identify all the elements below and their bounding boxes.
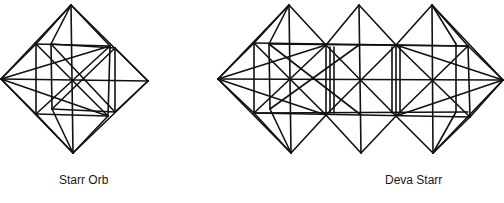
edge-line (396, 116, 433, 153)
edge-line (73, 116, 108, 153)
edge-line (270, 109, 291, 153)
edge-line (52, 109, 115, 112)
edge-line (115, 48, 148, 81)
edge-line (359, 5, 396, 45)
starr-orb-figure (1, 5, 148, 153)
edge-line (432, 5, 456, 44)
edge-line (52, 48, 115, 109)
edge-line (115, 81, 148, 112)
edge-line (468, 46, 470, 117)
edge-line (326, 115, 361, 153)
edge-line (71, 5, 110, 46)
starr-orb-label: Starr Orb (59, 173, 108, 187)
edge-line (254, 113, 470, 117)
edge-line (254, 113, 291, 153)
edge-line (289, 5, 326, 45)
edge-line (361, 116, 396, 153)
deva-starr-label: Deva Starr (385, 173, 442, 187)
edge-line (254, 5, 289, 43)
edge-line (291, 115, 326, 153)
edge-line (396, 5, 432, 45)
edge-line (433, 117, 470, 153)
edge-line (432, 5, 468, 46)
edge-line (326, 5, 359, 45)
edge-line (218, 79, 254, 113)
edge-line (36, 114, 73, 153)
deva-starr-figure (218, 5, 503, 153)
edge-line (36, 114, 108, 116)
edge-line (269, 44, 468, 46)
